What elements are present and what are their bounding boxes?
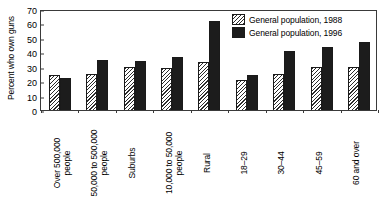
x-axis-labels: Over 500,000people50,000 to 500,000peopl…: [40, 113, 377, 217]
bar-group: [116, 11, 153, 110]
legend-label-1988: General population, 1988: [249, 15, 342, 25]
bar-1996: [135, 61, 146, 110]
bar-group: [78, 11, 115, 110]
x-tick-mark: [378, 110, 379, 113]
bar-1988: [311, 67, 322, 110]
x-axis-label: Rural: [203, 113, 213, 213]
bar-1996: [172, 57, 183, 110]
bar-1988: [161, 68, 172, 110]
bar-1996: [247, 75, 258, 110]
bar-chart-figure: Percent who own guns 010203040506070 Ove…: [0, 0, 384, 219]
bar-1996: [359, 42, 370, 110]
bar-1988: [86, 74, 97, 110]
bar-1996: [60, 78, 71, 110]
x-axis-label-line1: Rural: [202, 153, 212, 173]
y-axis-title: Percent who own guns: [6, 0, 16, 118]
bar-1988: [124, 67, 135, 110]
x-axis-label-line1: 10,000 to 50,000: [164, 132, 174, 194]
legend-swatch-1988-icon: [232, 14, 245, 25]
y-tick-label: 30: [27, 64, 41, 74]
legend-swatch-1996-icon: [232, 27, 245, 38]
y-tick-label: 20: [27, 78, 41, 88]
x-axis-label-line1: 30–44: [276, 151, 286, 174]
x-axis-label: 18–29: [240, 113, 250, 213]
bar-1988: [348, 67, 359, 110]
x-axis-label: 10,000 to 50,000people: [165, 113, 184, 213]
x-axis-label-line1: 45–59: [314, 151, 324, 174]
x-axis-label: 30–44: [277, 113, 287, 213]
x-axis-label: 60 and over: [352, 113, 362, 213]
x-axis-label-line1: 18–29: [239, 151, 249, 174]
bar-1988: [49, 75, 60, 110]
bar-1996: [322, 47, 333, 110]
y-tick-label: 60: [27, 20, 41, 30]
bar-group: [41, 11, 78, 110]
bar-1988: [198, 62, 209, 110]
legend: General population, 1988 General populat…: [232, 14, 342, 38]
y-tick-label: 50: [27, 35, 41, 45]
bar-1996: [97, 60, 108, 111]
bar-group: [191, 11, 228, 110]
x-axis-label: 45–59: [315, 113, 325, 213]
legend-item-1988: General population, 1988: [232, 14, 342, 25]
bar-1988: [236, 80, 247, 110]
y-tick-label: 10: [27, 93, 41, 103]
x-axis-label-line1: Suburbs: [127, 148, 137, 179]
x-axis-label-line1: 60 and over: [351, 141, 361, 185]
bar-1996: [209, 21, 220, 110]
legend-label-1996: General population, 1996: [249, 28, 342, 38]
x-axis-label: 50,000 to 500,000people: [90, 113, 109, 213]
x-axis-label-line1: Over 500,000: [52, 138, 62, 188]
bar-1988: [273, 74, 284, 110]
x-axis-label-line2: people: [100, 113, 110, 213]
x-axis-label-line2: people: [62, 113, 72, 213]
y-tick-label: 70: [27, 6, 41, 16]
legend-item-1996: General population, 1996: [232, 27, 342, 38]
bar-group: [341, 11, 378, 110]
x-axis-label: Over 500,000people: [53, 113, 72, 213]
x-axis-label-line2: people: [175, 113, 185, 213]
x-axis-label: Suburbs: [128, 113, 138, 213]
bar-group: [153, 11, 190, 110]
x-axis-label-line1: 50,000 to 500,000: [89, 130, 99, 197]
bar-1996: [284, 51, 295, 110]
y-tick-label: 40: [27, 49, 41, 59]
